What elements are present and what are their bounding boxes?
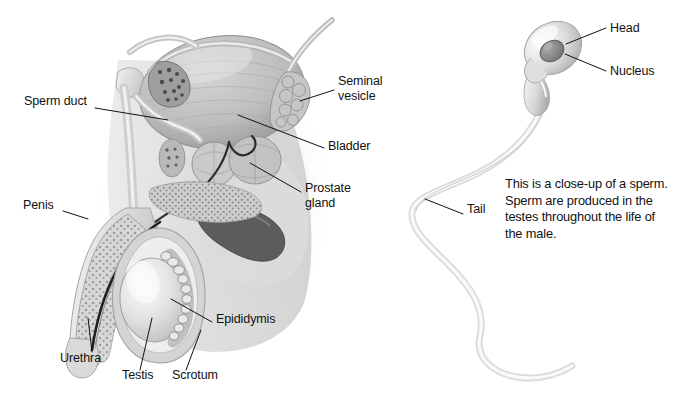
label-urethra: Urethra [60,351,101,366]
gland-speckled-left [159,139,185,177]
label-epididymis: Epididymis [216,312,275,327]
label-head: Head [610,21,639,36]
label-testis: Testis [122,368,153,383]
label-scrotum: Scrotum [172,368,218,383]
label-tail: Tail [467,202,485,217]
label-prostate-gland: Prostate gland [305,181,351,210]
label-penis: Penis [23,198,54,213]
caption-line-3: testes throughout the life of [505,209,673,226]
label-sperm-duct: Sperm duct [24,94,87,109]
sperm-caption: This is a close-up of a sperm. Sperm are… [505,176,673,242]
label-nucleus: Nucleus [610,64,654,79]
caption-line-2: Sperm are produced in the [505,193,673,210]
caption-line-4: the male. [505,226,673,243]
label-seminal-vesicle: Seminal vesicle [338,74,382,103]
caption-line-1: This is a close-up of a sperm. [505,176,673,193]
label-bladder: Bladder [328,139,370,154]
